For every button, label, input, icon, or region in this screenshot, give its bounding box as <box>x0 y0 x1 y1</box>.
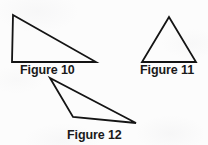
figure-10-triangle <box>12 15 96 62</box>
figure-11-triangle <box>142 17 196 62</box>
figure-12-triangle <box>50 78 136 123</box>
figure-11-label: Figure 11 <box>140 64 194 77</box>
figure-10-label: Figure 10 <box>20 64 75 77</box>
figure-sheet: Figure 10 Figure 11 Figure 12 <box>0 0 208 145</box>
figure-12-label: Figure 12 <box>67 129 122 142</box>
